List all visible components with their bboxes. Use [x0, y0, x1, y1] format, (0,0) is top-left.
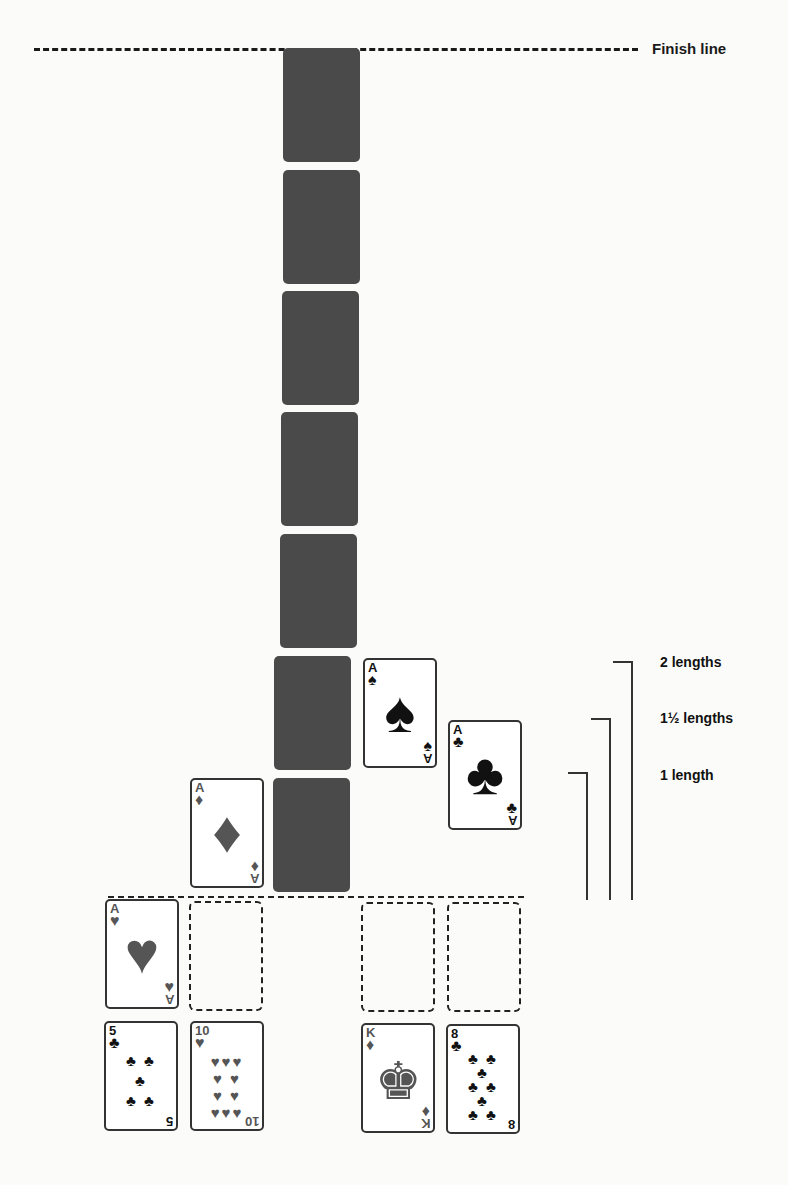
empty-card-slot[interactable] — [189, 901, 263, 1011]
one-length-label: 1 length — [660, 767, 714, 783]
club-icon: ♣ — [109, 1035, 120, 1051]
card-back[interactable] — [274, 656, 351, 770]
heart-icon: ♥ — [195, 1035, 205, 1051]
club-pips: ♣ ♣ ♣ ♣ ♣ — [116, 1051, 166, 1111]
one-half-lengths-label: 1½ lengths — [660, 710, 733, 726]
start-line — [108, 896, 524, 898]
empty-card-slot[interactable] — [447, 902, 521, 1012]
finish-line-label: Finish line — [652, 40, 726, 57]
ace-of-spades-card[interactable]: A ♠ ♠ ♠ A — [363, 658, 437, 768]
club-pips: ♣ ♣ ♣ ♣ ♣ ♣ ♣ ♣ — [458, 1052, 508, 1122]
eight-of-clubs-card[interactable]: 8 ♣ ♣ ♣ ♣ ♣ ♣ ♣ ♣ ♣ 8 — [446, 1024, 520, 1134]
two-lengths-label: 2 lengths — [660, 654, 721, 670]
card-back[interactable] — [280, 534, 357, 648]
ace-of-clubs-card[interactable]: A ♣ ♣ ♣ A — [448, 720, 522, 830]
ace-of-diamonds-card[interactable]: A ♦ ♦ ♦ A — [190, 778, 264, 888]
heart-pips: ♥♥♥ ♥ ♥ ♥ ♥ ♥♥♥ — [202, 1053, 252, 1121]
spade-icon: ♠ — [365, 682, 435, 742]
empty-card-slot[interactable] — [361, 902, 435, 1012]
diamond-icon: ♦ — [192, 802, 262, 862]
card-back[interactable] — [273, 778, 350, 892]
card-back[interactable] — [282, 291, 359, 405]
card-back[interactable] — [283, 170, 360, 284]
one-length-bracket — [568, 772, 588, 900]
heart-icon: ♥ — [107, 923, 177, 983]
club-icon: ♣ — [450, 744, 520, 804]
king-of-diamonds-card[interactable]: K ♦ ♚ ♦ K — [361, 1023, 435, 1133]
ten-of-hearts-card[interactable]: 10 ♥ ♥♥♥ ♥ ♥ ♥ ♥ ♥♥♥ 10 — [190, 1021, 264, 1131]
card-back[interactable] — [281, 412, 358, 526]
one-half-lengths-bracket — [591, 718, 611, 900]
ace-of-hearts-card[interactable]: A ♥ ♥ ♥ A — [105, 899, 179, 1009]
card-back[interactable] — [283, 48, 360, 162]
five-of-clubs-card[interactable]: 5 ♣ ♣ ♣ ♣ ♣ ♣ 5 — [104, 1021, 178, 1131]
two-lengths-bracket — [613, 661, 633, 900]
